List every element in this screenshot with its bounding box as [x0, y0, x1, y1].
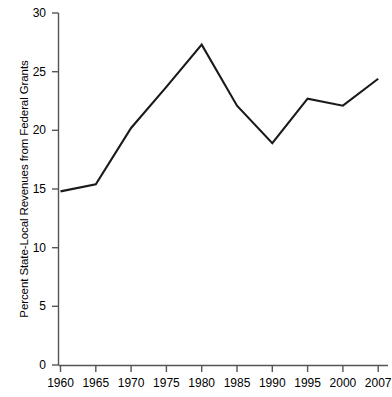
data-series-line [61, 45, 379, 192]
y-tick-label-15: 15 [20, 183, 46, 195]
x-axis-ticks [61, 366, 379, 373]
x-tick-label-2000: 2000 [323, 377, 363, 389]
y-tick-label-30: 30 [20, 7, 46, 19]
y-tick-label-25: 25 [20, 66, 46, 78]
chart-container: Percent State-Local Revenues from Federa… [0, 0, 392, 397]
x-tick-label-1965: 1965 [76, 377, 116, 389]
x-tick-label-1970: 1970 [111, 377, 151, 389]
y-tick-label-10: 10 [20, 242, 46, 254]
x-tick-label-1975: 1975 [146, 377, 186, 389]
line-chart-plot [0, 0, 392, 397]
x-tick-label-1960: 1960 [41, 377, 81, 389]
x-tick-label-1985: 1985 [217, 377, 257, 389]
x-tick-label-1995: 1995 [288, 377, 328, 389]
y-axis-ticks [52, 13, 59, 365]
y-tick-label-20: 20 [20, 124, 46, 136]
y-tick-label-0: 0 [20, 359, 46, 371]
x-tick-label-2007: 2007 [358, 377, 392, 389]
x-tick-label-1980: 1980 [182, 377, 222, 389]
x-tick-label-1990: 1990 [252, 377, 292, 389]
y-tick-label-5: 5 [20, 300, 46, 312]
